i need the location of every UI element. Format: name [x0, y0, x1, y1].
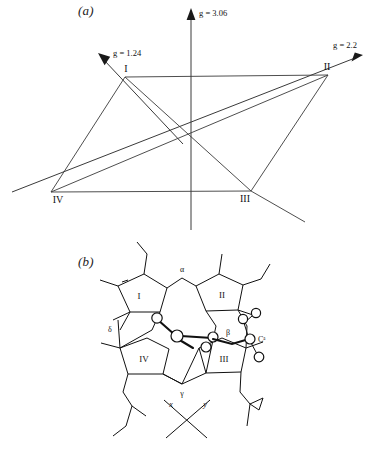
central-metal-core — [152, 313, 218, 352]
quad-edge-II-III — [251, 75, 328, 191]
ring-label-II: II — [219, 290, 225, 300]
ring-label-I: I — [138, 291, 141, 301]
vertex-label-IV: IV — [53, 194, 64, 205]
ring-label-IV: IV — [139, 354, 149, 364]
vertex-label-III: III — [240, 193, 250, 204]
meso-label-delta: δ — [108, 325, 112, 334]
vertex-label-II: II — [324, 61, 331, 72]
nitrogen-atom-1 — [152, 313, 162, 323]
g-tensor-quadrilateral — [51, 75, 328, 222]
quad-edge-I-II — [125, 75, 328, 77]
g-axis-vertical-arrowhead — [187, 8, 196, 20]
g-axis-upper-left-line — [104, 60, 183, 144]
c-alpha-atom — [245, 334, 255, 344]
nitrogen-atom-3 — [201, 342, 211, 352]
quad-diagonal-II-IV — [51, 75, 328, 192]
pyrrole-ring-I — [118, 274, 167, 312]
oxygen-atom-1 — [238, 314, 247, 323]
g-axis-upper-left-label: g = 1.24 — [113, 48, 142, 58]
quad-extension-III — [251, 191, 305, 222]
ring-II-substituents — [219, 254, 270, 316]
bond-metal-N2 — [181, 336, 212, 338]
panel-b: I II III IV α β γ δ Cᵃ x y — [0, 240, 385, 453]
panel-a-diagram: g = 3.06 g = 1.24 g = 2.2 I II III IV — [0, 0, 385, 240]
figure-root: g = 3.06 g = 1.24 g = 2.2 I II III IV — [0, 0, 385, 453]
g-axis-right-label: g = 2.2 — [333, 40, 357, 50]
ring-label-III: III — [220, 354, 229, 364]
panel-b-letter: (b) — [78, 254, 94, 270]
g-axis-upper-left-arrowhead — [98, 53, 110, 65]
molecular-axis-x-label: x — [168, 400, 173, 409]
meso-label-alpha: α — [180, 265, 185, 274]
panel-a: g = 3.06 g = 1.24 g = 2.2 I II III IV — [0, 0, 385, 240]
meso-label-beta: β — [226, 328, 230, 337]
meso-label-gamma: γ — [179, 389, 184, 398]
panel-b-diagram: I II III IV α β γ δ Cᵃ x y — [0, 240, 385, 453]
oxygen-atom-2 — [251, 308, 260, 317]
g-axis-vertical — [187, 8, 196, 230]
g-axis-right-arrowhead — [352, 52, 364, 61]
quad-edge-III-IV — [51, 191, 251, 192]
g-axis-vertical-label: g = 3.06 — [199, 8, 227, 18]
vertex-label-I: I — [124, 63, 127, 74]
iron-atom — [171, 330, 183, 342]
molecular-axis-y-label: y — [202, 400, 207, 409]
c-alpha-label: Cᵃ — [258, 335, 266, 344]
quad-edge-IV-I — [51, 77, 125, 192]
panel-a-letter: (a) — [78, 3, 94, 19]
oxygen-atom-3 — [254, 352, 264, 362]
